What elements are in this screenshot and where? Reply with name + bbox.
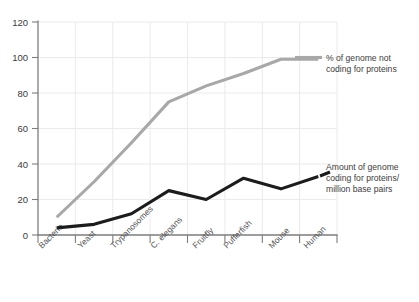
xtick-label-mouse: Mouse [266, 225, 291, 250]
chart-container: 120 100 80 60 40 20 0 Bacteria Yeast Try… [0, 0, 419, 302]
ytick-label-40: 40 [17, 159, 28, 170]
annotation-noncoding: % of genome not coding for proteins [326, 53, 397, 74]
y-tick-marks [32, 22, 38, 235]
xtick-label-c-elegans: C. elegans [148, 215, 184, 251]
annotation-noncoding-line2: coding for proteins [326, 64, 397, 74]
ytick-label-80: 80 [17, 88, 28, 99]
y-tick-labels: 120 100 80 60 40 20 0 [12, 17, 28, 241]
line-chart: 120 100 80 60 40 20 0 Bacteria Yeast Try… [0, 0, 419, 302]
annotation-noncoding-line1: % of genome not [326, 53, 392, 63]
ytick-label-60: 60 [17, 123, 28, 134]
xtick-label-bacteria: Bacteria [36, 221, 65, 250]
xtick-label-fruitfly: Fruitfly [190, 225, 216, 251]
ytick-label-0: 0 [23, 230, 28, 241]
annotation-coding-line3: million base pairs [326, 184, 392, 194]
xtick-label-yeast: Yeast [75, 228, 97, 250]
ytick-label-20: 20 [17, 194, 28, 205]
xtick-label-human: Human [301, 224, 328, 251]
annotation-coding: Amount of genome coding for proteins/ mi… [326, 162, 400, 194]
annotation-coding-line2: coding for proteins/ [326, 173, 400, 183]
ytick-label-100: 100 [12, 52, 28, 63]
annotation-coding-line1: Amount of genome [326, 162, 399, 172]
xtick-label-pufferfish: Pufferfish [221, 218, 254, 251]
ytick-label-120: 120 [12, 17, 28, 28]
